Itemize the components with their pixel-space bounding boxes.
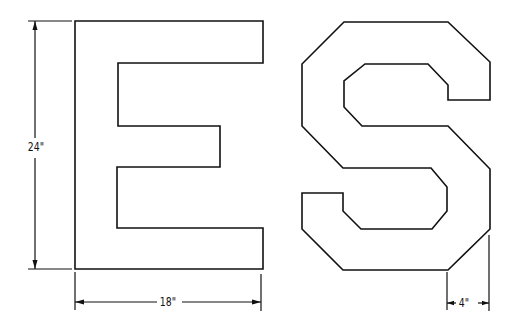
letter-s-outline	[302, 22, 490, 270]
height-dimension-label: 24"	[27, 140, 45, 154]
drawing-svg	[0, 0, 518, 333]
letter-drawing: 24" 18" 4"	[0, 0, 518, 333]
stroke-dimension-label: 4"	[458, 296, 470, 310]
letter-e-outline	[75, 21, 263, 269]
width-dimension-label: 18"	[159, 295, 177, 309]
